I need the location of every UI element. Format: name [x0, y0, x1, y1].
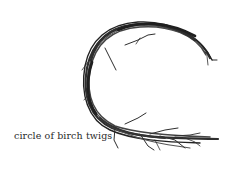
birch-twig-wreath-illustration: [0, 0, 239, 183]
caption: circle of birch twigs: [14, 130, 112, 141]
